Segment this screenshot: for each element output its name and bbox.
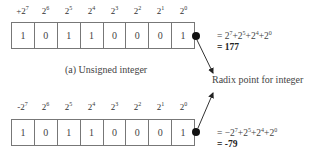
- arrow-from-signed: [198, 93, 213, 128]
- arrow-from-unsigned: [197, 40, 213, 73]
- radix-arrows: [0, 0, 321, 159]
